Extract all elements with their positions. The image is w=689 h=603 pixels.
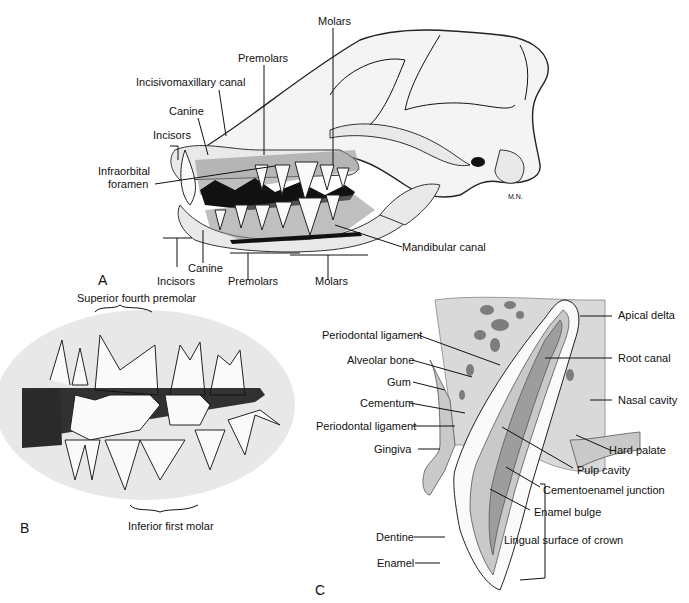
panel-letter-c: C: [315, 582, 325, 598]
label-infraorbital-foramen-1: Infraorbital: [98, 165, 150, 178]
label-premolars-top: Premolars: [238, 52, 288, 65]
occlusion-illustration: [0, 310, 295, 500]
label-molars-top: Molars: [318, 15, 351, 28]
label-apical-delta: Apical delta: [618, 309, 675, 322]
label-nasal-cavity: Nasal cavity: [618, 394, 677, 407]
label-incisivomaxillary-canal: Incisivomaxillary canal: [136, 76, 245, 89]
artist-signature: M.N.: [508, 190, 523, 203]
label-gum: Gum: [387, 376, 411, 389]
panel-letter-b: B: [20, 520, 29, 536]
label-periodontal-ligament-1: Periodontal ligament: [322, 329, 422, 342]
label-molars-bottom: Molars: [315, 275, 348, 288]
label-incisors-bottom: Incisors: [157, 275, 195, 288]
label-inferior-first-molar: Inferior first molar: [128, 520, 214, 533]
label-pulp-cavity: Pulp cavity: [577, 464, 630, 477]
label-enamel: Enamel: [377, 557, 414, 570]
label-canine-bottom: Canine: [188, 262, 223, 275]
label-cementum: Cementum: [360, 397, 414, 410]
label-periodontal-ligament-2: Periodontal ligament: [316, 420, 416, 433]
label-dentine: Dentine: [376, 531, 414, 544]
label-enamel-bulge: Enamel bulge: [534, 506, 601, 519]
label-gingiva: Gingiva: [374, 443, 411, 456]
label-hard-palate: Hard palate: [609, 444, 666, 457]
label-incisors-top: Incisors: [153, 129, 191, 142]
skull-illustration: [171, 30, 548, 252]
label-cementoenamel-junction: Cementoenamel junction: [543, 484, 665, 497]
label-lingual-surface-of-crown: Lingual surface of crown: [504, 534, 623, 547]
panel-letter-a: A: [98, 272, 107, 288]
label-infraorbital-foramen-2: foramen: [108, 178, 148, 191]
label-root-canal: Root canal: [618, 352, 671, 365]
label-superior-fourth-premolar: Superior fourth premolar: [77, 292, 196, 305]
label-alveolar-bone: Alveolar bone: [347, 354, 414, 367]
label-premolars-bottom: Premolars: [228, 275, 278, 288]
label-canine-top: Canine: [169, 105, 204, 118]
label-mandibular-canal: Mandibular canal: [402, 241, 486, 254]
